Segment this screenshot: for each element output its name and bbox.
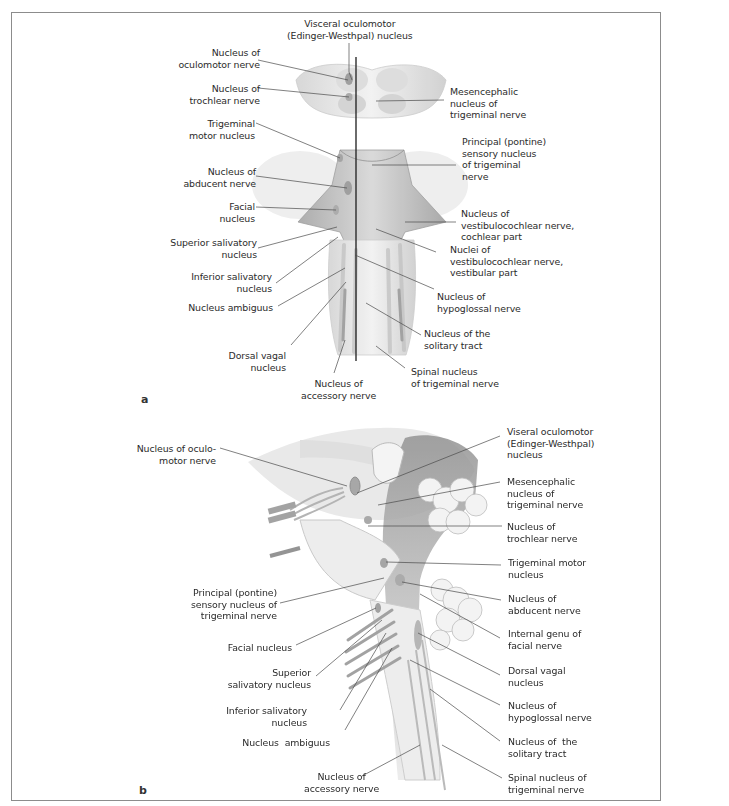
label-b-oculomotor-nucleus: Nucleus of oculo- motor nerve xyxy=(137,443,216,466)
label-b-nucleus-ambiguus: Nucleus ambiguus xyxy=(242,737,330,749)
label-b-visceral-oculomotor-nucleus: Viseral oculomotor (Edinger-Westhpal) nu… xyxy=(507,426,594,461)
label-b-spinal-trigeminal-nucleus: Spinal nucleus of trigeminal nerve xyxy=(508,772,586,795)
label-a-principal-sensory-trigeminal-nucleus: Principal (pontine) sensory nucleus of t… xyxy=(462,136,546,182)
label-a-facial-nucleus: Facial nucleus xyxy=(219,201,255,224)
label-b-accessory-nucleus: Nucleus of accessory nerve xyxy=(304,771,379,794)
anatomy-illustration xyxy=(0,0,729,806)
panel-a-brainstem xyxy=(252,57,468,361)
label-b-facial-nucleus: Facial nucleus xyxy=(228,642,292,654)
panel-b-brainstem xyxy=(248,428,487,790)
label-a-nucleus-ambiguus: Nucleus ambiguus xyxy=(188,302,273,314)
label-b-hypoglossal-nucleus: Nucleus of hypoglossal nerve xyxy=(508,700,592,723)
label-a-dorsal-vagal-nucleus: Dorsal vagal nucleus xyxy=(229,350,286,373)
panel-a-letter: a xyxy=(141,393,148,406)
label-a-spinal-trigeminal-nucleus: Spinal nucleus of trigeminal nerve xyxy=(411,366,499,389)
label-b-principal-sensory-trigeminal-nucleus: Principal (pontine) sensory nucleus of t… xyxy=(191,587,277,622)
label-a-inferior-salivatory-nucleus: Inferior salivatory nucleus xyxy=(191,271,272,294)
label-b-superior-salivatory-nucleus: Superior salivatory nucleus xyxy=(228,667,311,690)
label-a-abducent-nucleus: Nucleus of abducent nerve xyxy=(183,166,256,189)
label-a-vestibular-nuclei: Nuclei of vestibulocochlear nerve, vesti… xyxy=(450,244,563,279)
label-a-cochlear-nucleus: Nucleus of vestibulocochlear nerve, coch… xyxy=(461,208,574,243)
label-b-inferior-salivatory-nucleus: Inferior salivatory nucleus xyxy=(226,705,307,728)
label-b-solitary-tract-nucleus: Nucleus of the solitary tract xyxy=(508,736,577,759)
label-a-trochlear-nucleus: Nucleus of trochlear nerve xyxy=(190,83,261,106)
label-b-dorsal-vagal-nucleus: Dorsal vagal nucleus xyxy=(508,665,565,688)
label-a-oculomotor-nucleus: Nucleus of oculomotor nerve xyxy=(178,47,260,70)
label-a-accessory-nucleus: Nucleus of accessory nerve xyxy=(301,378,376,401)
label-a-mesencephalic-trigeminal-nucleus: Mesencephalic nucleus of trigeminal nerv… xyxy=(450,86,526,121)
label-b-trochlear-nucleus: Nucleus of trochlear nerve xyxy=(507,521,578,544)
label-a-hypoglossal-nucleus: Nucleus of hypoglossal nerve xyxy=(437,291,521,314)
label-a-superior-salivatory-nucleus: Superior salivatory nucleus xyxy=(170,237,257,260)
label-b-trigeminal-motor-nucleus: Trigeminal motor nucleus xyxy=(508,557,586,580)
label-b-abducent-nucleus: Nucleus of abducent nerve xyxy=(508,593,581,616)
label-a-solitary-tract-nucleus: Nucleus of the solitary tract xyxy=(424,328,490,351)
label-b-internal-genu-facial-nerve: Internal genu of facial nerve xyxy=(508,628,581,651)
label-a-visceral-oculomotor-nucleus: Visceral oculomotor (Edinger-Westhpal) n… xyxy=(287,18,413,41)
panel-b-letter: b xyxy=(139,784,147,797)
label-a-trigeminal-motor-nucleus: Trigeminal motor nucleus xyxy=(189,118,255,141)
label-b-mesencephalic-trigeminal-nucleus: Mesencephalic nucleus of trigeminal nerv… xyxy=(507,476,583,511)
